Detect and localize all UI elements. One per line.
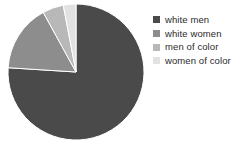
pie-slice-group xyxy=(8,4,144,140)
pie-chart-figure: white menwhite womenmen of colorwomen of… xyxy=(0,0,239,153)
legend-label: women of color xyxy=(165,56,231,66)
pie-svg xyxy=(0,0,152,153)
legend-swatch-white-men xyxy=(153,16,160,23)
legend-label: white women xyxy=(165,29,222,39)
legend-label: men of color xyxy=(165,42,218,52)
legend-item-men-of-color[interactable]: men of color xyxy=(152,40,239,54)
legend-swatch-white-women xyxy=(153,30,160,37)
legend-label: white men xyxy=(165,15,209,25)
legend-swatch-men-of-color xyxy=(153,44,160,51)
pie-plot-area xyxy=(0,0,152,153)
legend-item-white-women[interactable]: white women xyxy=(152,27,239,41)
legend-item-white-men[interactable]: white men xyxy=(152,13,239,27)
chart-legend: white menwhite womenmen of colorwomen of… xyxy=(152,13,239,68)
legend-swatch-women-of-color xyxy=(153,57,160,64)
legend-item-women-of-color[interactable]: women of color xyxy=(152,54,239,68)
